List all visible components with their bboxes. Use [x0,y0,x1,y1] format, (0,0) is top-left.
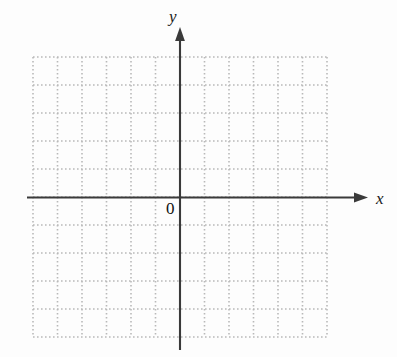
origin-label: 0 [166,200,175,217]
x-axis-label: x [376,190,384,207]
coordinate-plane-svg [0,0,397,357]
coordinate-grid-figure: y x 0 [0,0,397,357]
figure-background [0,0,397,357]
y-axis-label: y [169,8,177,25]
